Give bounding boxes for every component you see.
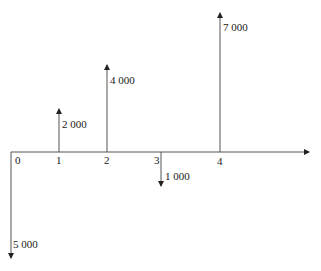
value-label-p2: 4 000 (110, 75, 135, 86)
tick-label-3: 3 (154, 155, 160, 166)
cash-flow-diagram: 0 1 2 3 4 2 000 4 000 7 000 1 000 5 000 (0, 0, 321, 271)
tick-label-4: 4 (217, 156, 223, 167)
tick-label-1: 1 (56, 155, 62, 166)
value-label-p1: 2 000 (62, 119, 87, 130)
value-label-p4: 7 000 (223, 22, 248, 33)
diagram-graphics (0, 0, 321, 271)
value-label-p3: 1 000 (165, 171, 190, 182)
tick-label-0: 0 (15, 155, 21, 166)
tick-label-2: 2 (104, 155, 110, 166)
value-label-p0: 5 000 (13, 239, 38, 250)
